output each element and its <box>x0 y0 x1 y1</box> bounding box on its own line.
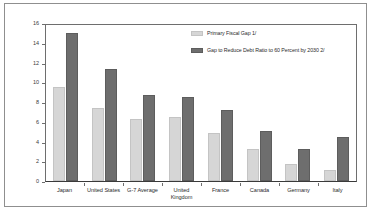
bar <box>298 149 310 181</box>
bar <box>92 108 104 181</box>
bar-group <box>124 25 163 181</box>
x-axis-tick-mark <box>240 183 241 186</box>
legend-item: Gap to Reduce Debt Ratio to 60 Percent b… <box>191 47 356 53</box>
bar <box>66 33 78 181</box>
x-axis-tick-mark <box>162 183 163 186</box>
legend-swatch-gap-to-reduce-debt-ratio <box>191 48 203 53</box>
x-axis-tick-mark <box>84 183 85 186</box>
x-axis: JapanUnited StatesG-7 AverageUnited King… <box>45 183 357 209</box>
bar <box>143 95 155 181</box>
x-axis-category-label: G-7 Average <box>123 183 162 209</box>
y-axis-tick-label: 14 <box>33 40 39 46</box>
bar <box>337 137 349 181</box>
x-axis-category-label: Canada <box>240 183 279 209</box>
bar <box>324 170 336 181</box>
y-axis: 0246810121416 <box>5 24 45 182</box>
legend-label-gap-to-reduce-debt-ratio: Gap to Reduce Debt Ratio to 60 Percent b… <box>207 47 324 53</box>
bar <box>260 131 272 181</box>
y-axis-tick-label: 4 <box>36 139 39 145</box>
legend-swatch-primary-fiscal-gap <box>191 31 203 36</box>
x-axis-tick-mark <box>279 183 280 186</box>
bar <box>105 69 117 181</box>
chart-legend: Primary Fiscal Gap 1/ Gap to Reduce Debt… <box>191 30 356 64</box>
bar <box>208 133 220 181</box>
bar <box>169 117 181 181</box>
x-axis-category-label: Italy <box>318 183 357 209</box>
x-axis-category-label: France <box>201 183 240 209</box>
y-axis-tick-label: 10 <box>33 79 39 85</box>
bar <box>247 149 259 181</box>
chart-figure: 0246810121416 JapanUnited StatesG-7 Aver… <box>0 0 371 211</box>
x-axis-category-label: United Kingdom <box>162 183 201 209</box>
bar <box>53 87 65 181</box>
x-axis-category-label: Germany <box>279 183 318 209</box>
x-axis-tick-mark <box>123 183 124 186</box>
y-axis-tick-label: 0 <box>36 178 39 184</box>
bar <box>130 119 142 181</box>
y-axis-tick-label: 12 <box>33 60 39 66</box>
y-axis-tick-label: 16 <box>33 20 39 26</box>
bar <box>221 110 233 181</box>
y-axis-tick-label: 8 <box>36 99 39 105</box>
bar-group <box>46 25 85 181</box>
bar <box>182 97 194 181</box>
x-axis-tick-mark <box>201 183 202 186</box>
y-axis-tick-label: 6 <box>36 119 39 125</box>
bar <box>285 164 297 181</box>
legend-item: Primary Fiscal Gap 1/ <box>191 30 356 36</box>
legend-label-primary-fiscal-gap: Primary Fiscal Gap 1/ <box>207 30 256 36</box>
x-axis-category-label: Japan <box>45 183 84 209</box>
bar-group <box>85 25 124 181</box>
y-axis-tick-label: 2 <box>36 158 39 164</box>
x-axis-tick-mark <box>318 183 319 186</box>
figure-border: 0246810121416 JapanUnited StatesG-7 Aver… <box>4 3 367 207</box>
x-axis-category-label: United States <box>84 183 123 209</box>
